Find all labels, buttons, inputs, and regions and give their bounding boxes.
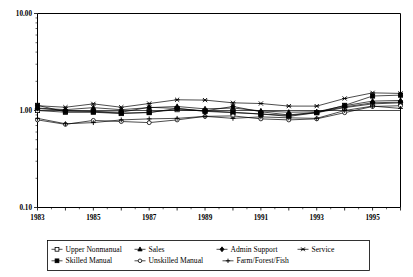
legend-item-upper-nonmanual[interactable]: Upper Nonmanual [52,245,122,254]
line-chart: 10.001.000.10198319851987198919911993199… [0,0,413,277]
data-point-marker [315,111,319,115]
x-tick-label-1: 1985 [86,214,101,222]
data-point-marker [258,101,263,105]
legend-marker [301,247,306,251]
legend-label: Admin Support [231,245,279,254]
data-point-marker [119,111,123,115]
data-point-marker [35,103,39,107]
data-point-marker [398,93,402,97]
series-admin-support [35,99,402,117]
data-point-marker [203,109,207,113]
chart-page: 10.001.000.10198319851987198919911993199… [0,0,413,277]
legend-label: Farm/Forest/Fish [237,256,290,265]
legend-item-sales[interactable]: Sales [135,245,165,254]
legend-marker [138,259,142,263]
data-point-marker [370,94,374,98]
legend-label: Skilled Manual [66,256,113,265]
data-point-marker [175,106,179,110]
data-point-marker [342,96,347,100]
data-point-marker [343,103,347,107]
legend-marker [55,247,59,251]
y-tick-label-1: 1.00 [19,107,32,115]
y-tick-label-2: 0.10 [19,204,32,212]
x-tick-label-2: 1987 [142,214,157,222]
legend-item-farm-forest-fish[interactable]: Farm/Forest/Fish [223,256,290,265]
data-point-marker [147,111,151,115]
data-point-marker [175,98,180,102]
data-point-marker [286,104,291,108]
data-point-marker [147,116,152,121]
legend-label: Unskilled Manual [149,256,204,265]
legend-item-skilled-manual[interactable]: Skilled Manual [52,256,113,265]
legend-item-unskilled-manual[interactable]: Unskilled Manual [135,256,204,265]
legend-marker [220,247,224,252]
x-tick-label-6: 1995 [365,214,380,222]
legend-item-admin-support[interactable]: Admin Support [217,245,279,254]
data-point-marker [63,110,67,114]
x-tick-label-5: 1993 [310,214,325,222]
legend-marker [55,259,59,263]
legend-marker [226,259,230,263]
series-skilled-manual [35,93,402,118]
legend-item-service[interactable]: Service [298,245,335,254]
legend-marker [138,247,142,251]
x-tick-label-4: 1991 [254,214,269,222]
x-tick-label-0: 1983 [30,214,45,222]
legend-label: Service [312,245,335,254]
legend-label: Sales [149,245,165,254]
y-tick-label-0: 10.00 [16,10,33,18]
series-upper-nonmanual [35,101,402,118]
data-point-marker [91,110,95,114]
x-tick-label-3: 1989 [198,214,213,222]
legend-label: Upper Nonmanual [66,245,122,254]
data-point-marker [314,104,319,108]
data-point-marker [203,98,208,102]
